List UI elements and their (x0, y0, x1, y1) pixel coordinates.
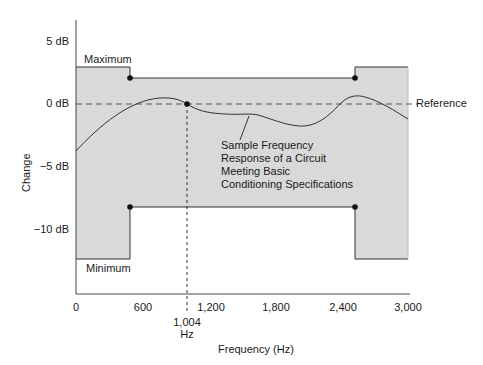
annotation-line-4: Conditioning Specifications (221, 177, 353, 191)
xtick-600: 600 (118, 301, 168, 314)
max-step-left-dot (127, 75, 133, 81)
ytick-0db: 0 dB (19, 97, 69, 110)
annotation-line-1: Sample Frequency (221, 138, 313, 152)
xtick-1200: 1,200 (186, 301, 236, 314)
annotation-line-3: Meeting Basic (221, 164, 290, 178)
xtick-0: 0 (51, 301, 101, 314)
xtick-1800: 1,800 (251, 301, 301, 314)
reference-label: Reference (416, 97, 467, 110)
marker-1004-unit: Hz (162, 328, 212, 341)
x-axis-label: Frequency (Hz) (218, 343, 294, 356)
reference-point-dot (184, 101, 190, 107)
xtick-3000: 3,000 (383, 301, 433, 314)
xtick-2400: 2,400 (318, 301, 368, 314)
minimum-label: Minimum (86, 262, 131, 275)
min-step-left-dot (127, 204, 133, 210)
y-axis-label: Change (20, 153, 33, 192)
annotation-line-2: Response of a Circuit (221, 151, 326, 165)
min-step-right-dot (352, 204, 358, 210)
ytick-minus10db: −10 dB (19, 223, 69, 236)
max-step-right-dot (352, 75, 358, 81)
ytick-5db: 5 dB (19, 35, 69, 48)
maximum-label: Maximum (84, 53, 132, 66)
